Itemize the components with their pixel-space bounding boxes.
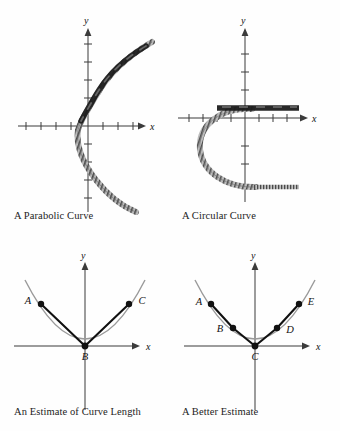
x-axis-label: x: [149, 121, 155, 132]
segment-b-c: [85, 304, 129, 346]
caption-circular-curve: A Circular Curve: [182, 210, 256, 221]
axes: [14, 268, 134, 410]
estimate-plot: A B C x y: [0, 250, 170, 428]
x-axis-arrow: [132, 343, 140, 350]
caption-better-estimate: A Better Estimate: [182, 406, 258, 417]
panel-estimate-of-curve-length: A B C x y: [0, 250, 170, 428]
point-label-d: D: [285, 324, 294, 335]
circular-curve-plot: x y: [170, 8, 340, 220]
point-e: [296, 301, 302, 307]
point-label-b: B: [217, 323, 224, 334]
x-axis-arrow: [302, 343, 310, 350]
point-b: [82, 343, 89, 350]
point-label-b: B: [82, 351, 89, 362]
point-a: [208, 301, 214, 307]
y-axis-arrow: [82, 262, 89, 270]
segment-b-c: [233, 328, 255, 346]
y-axis-arrow: [252, 262, 259, 270]
x-axis-arrow: [300, 115, 308, 122]
panel-parabolic-curve: x y: [0, 8, 170, 220]
point-label-c: C: [251, 351, 259, 362]
point-c: [126, 301, 132, 307]
axes: [184, 268, 304, 410]
point-label-a: A: [195, 296, 203, 307]
point-c: [252, 343, 259, 350]
point-d: [274, 325, 280, 331]
parabolic-curve-plot: x y: [0, 8, 170, 220]
y-axis-arrow: [85, 28, 92, 36]
panel-circular-curve: x y: [170, 8, 340, 220]
y-axis-label: y: [80, 250, 86, 261]
x-axis-label: x: [145, 341, 151, 352]
y-axis-label: y: [250, 250, 256, 261]
point-b: [230, 325, 236, 331]
segment-a-b: [41, 304, 85, 346]
axes: [178, 34, 302, 202]
point-label-e: E: [307, 296, 315, 307]
panel-better-estimate: A B C D E x y: [170, 250, 340, 428]
y-axis-label: y: [240, 15, 246, 26]
point-a: [38, 301, 44, 307]
x-axis-label: x: [315, 341, 321, 352]
circular-curve-path: [200, 109, 256, 187]
caption-estimate-of-curve-length: An Estimate of Curve Length: [14, 406, 141, 417]
caption-parabolic-curve: A Parabolic Curve: [14, 210, 93, 221]
x-axis-arrow: [138, 123, 146, 130]
point-label-a: A: [24, 295, 32, 306]
better-estimate-plot: A B C D E x y: [170, 250, 340, 428]
figure-sheet: x y A Parabolic Curve: [0, 0, 340, 431]
y-axis-label: y: [83, 15, 89, 26]
point-label-c: C: [138, 295, 146, 306]
segment-c-d: [255, 328, 277, 346]
x-axis-label: x: [311, 113, 317, 124]
y-axis-arrow: [242, 28, 249, 36]
